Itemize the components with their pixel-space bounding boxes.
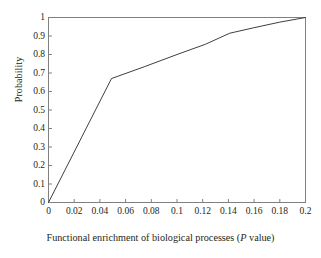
x-tick-labels: 00.020.040.060.080.10.120.140.160.180.2 [0, 0, 321, 258]
x-tick-label: 0.2 [286, 206, 321, 217]
y-axis-title: Probability [13, 30, 24, 130]
chart-figure: 00.10.20.30.40.50.60.70.80.91 00.020.040… [0, 0, 321, 258]
x-axis-title-prefix: Functional enrichment of biological proc… [46, 232, 240, 243]
x-axis-title: Functional enrichment of biological proc… [0, 232, 321, 243]
x-axis-title-suffix: value) [247, 232, 275, 243]
